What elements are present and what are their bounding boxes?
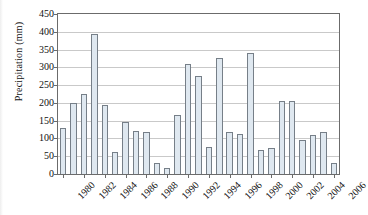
x-tick-label: 2002 xyxy=(305,180,326,201)
x-tick-label: 1990 xyxy=(180,180,201,201)
y-tick-label: 250 xyxy=(39,80,54,90)
bar xyxy=(133,131,139,174)
bar xyxy=(237,134,243,174)
x-tick-label: 1998 xyxy=(263,180,284,201)
scan-edge-artifact xyxy=(0,0,3,215)
x-tick-label: 1992 xyxy=(201,180,222,201)
x-tick-label: 1982 xyxy=(97,180,118,201)
x-tick-label: 2000 xyxy=(284,180,305,201)
x-tick-label: 1986 xyxy=(138,180,159,201)
bar xyxy=(154,163,160,174)
y-tick-label: 400 xyxy=(39,27,54,37)
bar xyxy=(206,147,212,174)
bar xyxy=(258,150,264,174)
y-tick-mark xyxy=(54,174,58,175)
y-tick-label: 450 xyxy=(39,9,54,19)
x-tick-mark xyxy=(126,174,127,178)
x-tick-mark xyxy=(84,174,85,178)
y-tick-label: 200 xyxy=(39,98,54,108)
bar xyxy=(81,94,87,174)
bar xyxy=(279,101,285,174)
plot-area: 050100150200250300350400450 198019821984… xyxy=(57,13,340,175)
x-tick-mark xyxy=(271,174,272,178)
x-tick-mark xyxy=(105,174,106,178)
bar xyxy=(320,132,326,174)
x-tick-label: 2006 xyxy=(347,180,368,201)
y-tick-label: 300 xyxy=(39,62,54,72)
x-tick-mark xyxy=(334,174,335,178)
x-tick-label: 1988 xyxy=(159,180,180,201)
bar xyxy=(185,64,191,174)
bar xyxy=(143,132,149,174)
x-tick-mark xyxy=(209,174,210,178)
x-tick-mark xyxy=(188,174,189,178)
x-tick-mark xyxy=(146,174,147,178)
x-tick-mark xyxy=(251,174,252,178)
x-tick-mark xyxy=(313,174,314,178)
bar xyxy=(247,53,253,174)
bar xyxy=(112,152,118,174)
x-tick-label: 2004 xyxy=(326,180,347,201)
bar xyxy=(70,103,76,174)
bar xyxy=(60,128,66,174)
bar xyxy=(122,122,128,174)
x-tick-label: 1984 xyxy=(118,180,139,201)
bar xyxy=(195,76,201,174)
bar xyxy=(299,140,305,174)
bar xyxy=(102,105,108,174)
x-tick-label: 1980 xyxy=(76,180,97,201)
y-tick-label: 350 xyxy=(39,45,54,55)
bars-layer xyxy=(58,14,339,174)
bar xyxy=(226,132,232,174)
y-tick-label: 50 xyxy=(44,151,54,161)
bar xyxy=(91,34,97,174)
bar xyxy=(331,163,337,174)
bar xyxy=(268,148,274,174)
x-tick-mark xyxy=(63,174,64,178)
x-tick-mark xyxy=(292,174,293,178)
x-tick-mark xyxy=(167,174,168,178)
y-tick-label: 100 xyxy=(39,133,54,143)
x-tick-label: 1994 xyxy=(222,180,243,201)
bar xyxy=(310,135,316,174)
bar xyxy=(216,58,222,174)
y-tick-label: 150 xyxy=(39,116,54,126)
x-tick-label: 1996 xyxy=(243,180,264,201)
y-axis-title: Precipitation (mm) xyxy=(13,0,24,132)
bar xyxy=(289,101,295,174)
x-tick-mark xyxy=(230,174,231,178)
bar xyxy=(174,115,180,174)
